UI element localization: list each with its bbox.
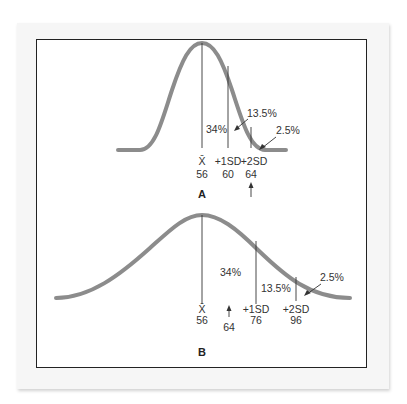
panel-b-label: B	[198, 346, 206, 358]
panel-b-2sd-value: 96	[290, 314, 302, 326]
panel-a-2-5-label: 2.5%	[276, 124, 300, 136]
panel-a-mean-symbol: X̄	[198, 155, 205, 167]
panel-b-13-5-label: 13.5%	[261, 282, 291, 294]
panel-a-mean-value: 56	[196, 168, 208, 180]
panel-a-1sd-symbol: +1SD	[215, 155, 242, 167]
normal-distribution-figure: 34% 13.5% 2.5% X̄ +1SD +2SD 56 60 64 A 3…	[0, 0, 407, 404]
panel-b-34-label: 34%	[220, 266, 241, 278]
panel-b-2-5-label: 2.5%	[320, 271, 344, 283]
panel-b-arrow-value: 64	[223, 321, 235, 333]
panel-a: 34% 13.5% 2.5% X̄ +1SD +2SD 56 60 64 A	[118, 43, 300, 200]
panel-a-1sd-value: 60	[222, 168, 234, 180]
arrow-up-icon	[249, 182, 254, 188]
panel-a-label: A	[198, 188, 206, 200]
arrow-up-icon	[227, 305, 232, 311]
panel-a-34-label: 34%	[206, 123, 227, 135]
panel-a-2sd-value: 64	[245, 168, 257, 180]
panel-a-13-5-label: 13.5%	[247, 107, 277, 119]
panel-a-2sd-symbol: +2SD	[241, 155, 268, 167]
panel-b-1sd-value: 76	[250, 314, 262, 326]
panel-b: 34% 13.5% 2.5% X̄ +1SD +2SD 56 76 96 64 …	[56, 215, 350, 358]
panel-b-curve	[56, 215, 350, 298]
panel-b-mean-value: 56	[196, 314, 208, 326]
